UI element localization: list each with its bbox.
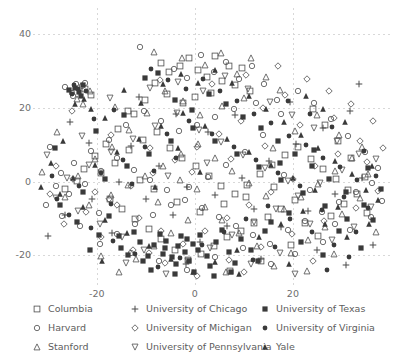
data-point <box>59 137 66 144</box>
data-point <box>344 132 351 139</box>
data-point <box>71 159 78 166</box>
legend-marker-icon <box>128 340 142 354</box>
data-point <box>110 238 117 245</box>
data-point <box>184 216 191 223</box>
data-point <box>197 231 204 238</box>
scatter-plot-figure: 40200-20 -20020 ColumbiaHarvardStanford … <box>0 0 400 359</box>
data-point <box>252 156 259 163</box>
data-point <box>268 119 275 126</box>
legend-marker-icon <box>30 340 44 354</box>
data-point <box>234 71 241 78</box>
y-axis-tick-label: 40 <box>1 29 31 39</box>
data-point <box>95 209 102 216</box>
data-point <box>144 252 151 259</box>
data-point <box>296 121 303 128</box>
data-point <box>203 252 210 259</box>
data-point <box>331 115 338 122</box>
legend-item[interactable]: Yale <box>258 338 375 355</box>
legend-item-label: University of Texas <box>276 303 365 314</box>
data-point <box>268 218 275 225</box>
data-point <box>161 88 168 95</box>
data-point <box>287 242 294 249</box>
legend-item-label: Yale <box>276 341 295 352</box>
data-point <box>290 174 297 181</box>
data-point <box>319 239 326 246</box>
data-point <box>309 163 316 170</box>
legend-item-label: Stanford <box>48 341 89 352</box>
data-point <box>368 163 375 170</box>
data-point <box>278 110 285 117</box>
data-point <box>295 87 302 94</box>
data-point <box>246 180 253 187</box>
data-point <box>304 267 311 274</box>
data-point <box>309 228 316 235</box>
legend-item[interactable]: University of Virginia <box>258 319 375 336</box>
data-point <box>61 221 68 228</box>
legend-item[interactable]: University of Chicago <box>128 300 272 317</box>
data-point <box>267 98 274 105</box>
data-point <box>95 231 102 238</box>
data-point <box>370 118 377 125</box>
data-point <box>182 85 189 92</box>
data-point <box>204 174 211 181</box>
data-point <box>126 126 133 133</box>
data-point <box>310 257 317 264</box>
legend-item[interactable]: Harvard <box>30 319 93 336</box>
data-point <box>268 189 275 196</box>
data-point <box>123 163 130 170</box>
data-point <box>346 108 353 115</box>
legend-marker-icon <box>128 302 142 316</box>
data-point <box>251 218 258 225</box>
data-point <box>49 173 56 180</box>
data-point <box>167 229 174 236</box>
legend-item-label: Columbia <box>48 303 93 314</box>
legend-item[interactable]: University of Michigan <box>128 319 272 336</box>
data-point <box>237 236 244 243</box>
data-point <box>246 93 253 100</box>
data-point <box>194 67 201 74</box>
data-point <box>171 271 178 278</box>
data-point <box>89 195 96 202</box>
data-point <box>91 189 98 196</box>
data-point <box>332 157 339 164</box>
data-point <box>42 202 49 209</box>
data-point <box>152 183 159 190</box>
data-point <box>210 273 217 280</box>
data-point <box>101 216 108 223</box>
legend-item-label: University of Pennsylvania <box>146 341 272 352</box>
data-point <box>353 204 360 211</box>
data-point <box>208 130 215 137</box>
data-point <box>257 243 264 250</box>
legend-column-3: University of TexasUniversity of Virgini… <box>258 300 375 357</box>
data-point <box>142 172 149 179</box>
data-point <box>274 62 281 69</box>
data-point <box>122 260 129 267</box>
legend-item[interactable]: University of Texas <box>258 300 375 317</box>
legend-item[interactable]: University of Pennsylvania <box>128 338 272 355</box>
data-point <box>322 220 329 227</box>
legend-item-label: University of Chicago <box>146 303 247 314</box>
data-point <box>211 259 218 266</box>
data-point <box>115 126 122 133</box>
data-point <box>183 74 190 81</box>
data-point <box>372 228 379 235</box>
data-point <box>107 201 114 208</box>
data-point <box>167 202 174 209</box>
legend-item[interactable]: Columbia <box>30 300 93 317</box>
data-point <box>328 123 335 130</box>
legend-item[interactable]: Stanford <box>30 338 93 355</box>
data-point <box>185 55 192 62</box>
data-point <box>224 215 231 222</box>
data-point <box>57 202 64 209</box>
data-point <box>106 95 113 102</box>
y-axis-tick-label: -20 <box>1 250 31 260</box>
data-point <box>142 74 149 81</box>
data-point <box>328 213 335 220</box>
data-point <box>229 231 236 238</box>
y-axis-tick-label: 0 <box>1 177 31 187</box>
data-point <box>242 194 249 201</box>
data-point <box>358 244 365 251</box>
data-point <box>66 212 73 219</box>
data-point <box>213 239 220 246</box>
data-point <box>334 204 341 211</box>
